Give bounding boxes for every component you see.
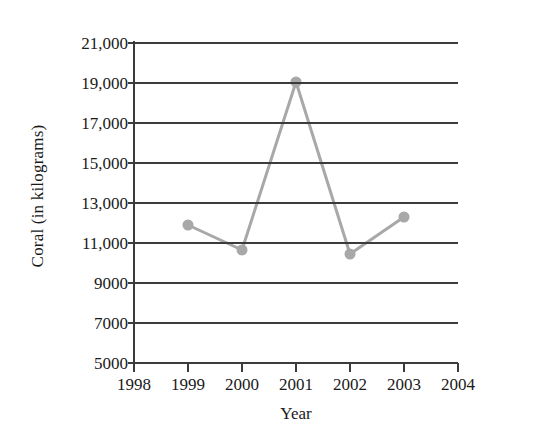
x-axis-tick-label-group: 1998199920002001200220032004 <box>134 376 458 400</box>
gridline-horizontal <box>134 122 458 124</box>
gridline-horizontal <box>134 282 458 284</box>
y-axis-tick-mark <box>128 162 134 164</box>
gridline-horizontal <box>134 242 458 244</box>
gridline-horizontal <box>134 82 458 84</box>
x-axis-title: Year <box>134 404 458 424</box>
x-axis-tick-mark <box>349 363 351 372</box>
y-axis-tick-mark <box>128 322 134 324</box>
plot-area <box>134 43 458 363</box>
y-axis-tick-label: 5000 <box>28 355 128 372</box>
y-axis-tick-label: 7000 <box>28 315 128 332</box>
y-axis-tick-mark <box>128 82 134 84</box>
line-chart-figure: Coral (in kilograms) 50007000900011,0001… <box>0 0 539 446</box>
series-line <box>188 82 404 254</box>
y-axis-tick-mark <box>128 202 134 204</box>
x-axis-tick-mark <box>133 363 135 372</box>
y-axis-tick-mark <box>128 42 134 44</box>
y-axis-tick-label: 15,000 <box>28 155 128 172</box>
y-axis-tick-label-group: 50007000900011,00013,00015,00017,00019,0… <box>28 43 128 363</box>
y-axis-tick-label: 19,000 <box>28 75 128 92</box>
y-axis-tick-label: 9000 <box>28 275 128 292</box>
y-axis-tick-label: 17,000 <box>28 115 128 132</box>
x-axis-tick-mark <box>187 363 189 372</box>
x-axis-tick-label: 2004 <box>423 376 493 393</box>
x-axis-tick-mark <box>403 363 405 372</box>
y-axis-tick-mark <box>128 122 134 124</box>
data-point-marker <box>399 212 410 223</box>
y-axis-tick-label: 21,000 <box>28 35 128 52</box>
gridline-horizontal <box>134 42 458 44</box>
data-point-marker <box>345 249 356 260</box>
gridline-horizontal <box>134 162 458 164</box>
data-point-marker <box>237 245 248 256</box>
y-axis-tick-label: 13,000 <box>28 195 128 212</box>
gridline-horizontal <box>134 202 458 204</box>
y-axis-tick-label: 11,000 <box>28 235 128 252</box>
y-axis-tick-mark <box>128 282 134 284</box>
data-point-marker <box>183 220 194 231</box>
x-axis-tick-mark <box>241 363 243 372</box>
x-axis-tick-mark <box>457 363 459 372</box>
gridline-horizontal <box>134 322 458 324</box>
y-axis-tick-mark <box>128 242 134 244</box>
x-axis-tick-mark <box>295 363 297 372</box>
